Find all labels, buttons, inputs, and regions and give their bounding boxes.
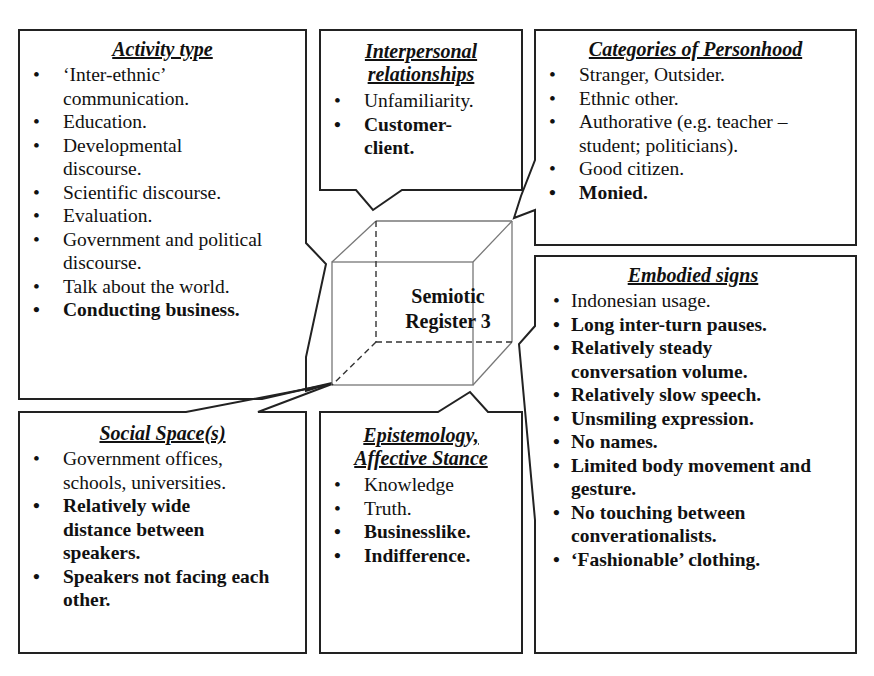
bullet-icon: • bbox=[33, 275, 40, 299]
list-item: •No names. bbox=[551, 430, 851, 454]
personhood-box: Categories of Personhood •Stranger, Outs… bbox=[535, 38, 856, 204]
list-item: •Monied. bbox=[535, 181, 856, 205]
bullet-icon: • bbox=[553, 454, 560, 478]
bullet-icon: • bbox=[553, 336, 560, 360]
list-item: •Authorative (e.g. teacher – student; po… bbox=[535, 110, 839, 157]
bullet-icon: • bbox=[553, 548, 560, 572]
list-item: •Relatively steady conversation volume. bbox=[551, 336, 811, 383]
bullet-icon: • bbox=[33, 204, 40, 228]
embodied-list: •Indonesian usage. •Long inter-turn paus… bbox=[551, 289, 851, 571]
bullet-icon: • bbox=[33, 447, 40, 471]
list-item: •Government offices, schools, universiti… bbox=[19, 447, 283, 494]
list-item: •‘Inter-ethnic’ communication. bbox=[19, 63, 223, 110]
list-item: •Relatively slow speech. bbox=[551, 383, 851, 407]
bullet-icon: • bbox=[553, 430, 560, 454]
social-space-box: Social Space(s) •Government offices, sch… bbox=[19, 422, 306, 612]
bullet-icon: • bbox=[334, 89, 341, 113]
epistemology-box: Epistemology, Affective Stance •Knowledg… bbox=[320, 424, 522, 567]
center-label-line2: Register 3 bbox=[388, 309, 508, 334]
bullet-icon: • bbox=[334, 473, 341, 497]
list-item: •Conducting business. bbox=[19, 298, 306, 322]
bullet-icon: • bbox=[553, 289, 560, 313]
list-item: •Education. bbox=[19, 110, 306, 134]
epistemology-title: Epistemology, Affective Stance bbox=[320, 424, 522, 470]
bullet-icon: • bbox=[33, 134, 40, 158]
interpersonal-list: •Unfamiliarity. •Customer-client. bbox=[320, 89, 522, 160]
bullet-icon: • bbox=[33, 228, 40, 252]
list-item: •Ethnic other. bbox=[535, 87, 856, 111]
list-item: •Evaluation. bbox=[19, 204, 306, 228]
embodied-box: Embodied signs •Indonesian usage. •Long … bbox=[551, 264, 851, 571]
list-item: •Businesslike. bbox=[320, 520, 522, 544]
bullet-icon: • bbox=[553, 313, 560, 337]
bullet-icon: • bbox=[334, 113, 341, 137]
bullet-icon: • bbox=[33, 565, 40, 589]
center-label: Semiotic Register 3 bbox=[388, 284, 508, 334]
bullet-icon: • bbox=[33, 110, 40, 134]
list-item: •Unsmiling expression. bbox=[551, 407, 851, 431]
list-item: •Customer-client. bbox=[320, 113, 474, 160]
bullet-icon: • bbox=[549, 110, 556, 134]
list-item: •Unfamiliarity. bbox=[320, 89, 522, 113]
interpersonal-title: Interpersonal relationships bbox=[320, 40, 522, 86]
personhood-title: Categories of Personhood bbox=[535, 38, 856, 61]
list-item: •Relatively wide distance between speake… bbox=[19, 494, 263, 565]
bullet-icon: • bbox=[549, 181, 556, 205]
list-item: •Long inter-turn pauses. bbox=[551, 313, 851, 337]
activity-type-list: •‘Inter-ethnic’ communication. •Educatio… bbox=[19, 63, 306, 322]
bullet-icon: • bbox=[553, 501, 560, 525]
list-item: •Indifference. bbox=[320, 544, 522, 568]
bullet-icon: • bbox=[549, 63, 556, 87]
activity-type-box: Activity type •‘Inter-ethnic’ communicat… bbox=[19, 38, 306, 322]
bullet-icon: • bbox=[334, 544, 341, 568]
personhood-list: •Stranger, Outsider. •Ethnic other. •Aut… bbox=[535, 63, 856, 204]
bullet-icon: • bbox=[334, 497, 341, 521]
list-item: •Knowledge bbox=[320, 473, 522, 497]
list-item: •Developmental discourse. bbox=[19, 134, 233, 181]
list-item: •Indonesian usage. bbox=[551, 289, 851, 313]
list-item: •Government and political discourse. bbox=[19, 228, 273, 275]
list-item: •Stranger, Outsider. bbox=[535, 63, 856, 87]
social-space-list: •Government offices, schools, universiti… bbox=[19, 447, 306, 612]
list-item: •Good citizen. bbox=[535, 157, 856, 181]
bullet-icon: • bbox=[33, 181, 40, 205]
center-label-line1: Semiotic bbox=[388, 284, 508, 309]
bullet-icon: • bbox=[553, 383, 560, 407]
bullet-icon: • bbox=[33, 63, 40, 87]
list-item: •Truth. bbox=[320, 497, 522, 521]
bullet-icon: • bbox=[553, 407, 560, 431]
embodied-title: Embodied signs bbox=[535, 264, 851, 287]
list-item: •No touching between converationalists. bbox=[551, 501, 811, 548]
list-item: •Talk about the world. bbox=[19, 275, 306, 299]
list-item: •Scientific discourse. bbox=[19, 181, 306, 205]
activity-type-title: Activity type bbox=[19, 38, 306, 61]
list-item: •Speakers not facing each other. bbox=[19, 565, 283, 612]
bullet-icon: • bbox=[33, 494, 40, 518]
social-space-title: Social Space(s) bbox=[19, 422, 306, 445]
bullet-icon: • bbox=[549, 87, 556, 111]
bullet-icon: • bbox=[549, 157, 556, 181]
epistemology-list: •Knowledge •Truth. •Businesslike. •Indif… bbox=[320, 473, 522, 567]
list-item: •‘Fashionable’ clothing. bbox=[551, 548, 851, 572]
bullet-icon: • bbox=[334, 520, 341, 544]
bullet-icon: • bbox=[33, 298, 40, 322]
list-item: •Limited body movement and gesture. bbox=[551, 454, 831, 501]
interpersonal-box: Interpersonal relationships •Unfamiliari… bbox=[320, 40, 522, 160]
